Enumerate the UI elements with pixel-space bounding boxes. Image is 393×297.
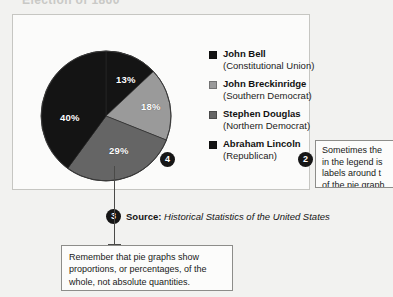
legend-swatch-icon — [209, 111, 217, 119]
legend-party-lincoln: (Republican) — [223, 150, 301, 162]
legend-item-breckinridge: John Breckinridge (Southern Democrat) — [209, 78, 337, 101]
legend-name-breckinridge: John Breckinridge — [223, 78, 312, 90]
source-line: Source: Historical Statistics of the Uni… — [126, 211, 330, 222]
legend-swatch-icon — [209, 51, 217, 59]
callout-badge-4: 4 — [160, 152, 175, 167]
callout-leader-line — [114, 166, 115, 245]
source-title: Historical Statistics of the United Stat… — [164, 211, 330, 222]
callout-box-right: Sometimes the in the legend is labels ar… — [315, 140, 393, 188]
legend-party-douglas: (Northern Democrat) — [223, 120, 310, 132]
legend-name-lincoln: Abraham Lincoln — [223, 138, 301, 150]
legend-swatch-icon — [209, 81, 217, 89]
legend-name-bell: John Bell — [223, 48, 314, 60]
callout-badge-2: 2 — [298, 152, 313, 167]
callout-right-line-2: in the legend is — [322, 157, 393, 169]
pie-label-lincoln: 40% — [60, 112, 80, 123]
legend-name-douglas: Stephen Douglas — [223, 108, 310, 120]
callout-right-line-1: Sometimes the — [322, 145, 393, 157]
legend-party-bell: (Constitutional Union) — [223, 60, 314, 72]
legend-item-bell: John Bell (Constitutional Union) — [209, 48, 337, 71]
pie-label-douglas: 29% — [109, 145, 129, 156]
legend-party-breckinridge: (Southern Democrat) — [223, 90, 312, 102]
legend-swatch-icon — [209, 141, 217, 149]
callout-right-line-4: of the pie graph — [322, 180, 393, 188]
callout-right-line-3: labels around t — [322, 168, 393, 180]
callout-bottom-text: Remember that pie graphs show proportion… — [69, 251, 225, 288]
pie-label-bell: 13% — [116, 74, 136, 85]
source-label: Source: — [126, 211, 161, 222]
pie-label-breckinridge: 18% — [141, 101, 161, 112]
legend-item-douglas: Stephen Douglas (Northern Democrat) — [209, 108, 337, 131]
clipped-figure-title: Election of 1860 — [22, 0, 172, 4]
callout-box-bottom: Remember that pie graphs show proportion… — [61, 245, 233, 291]
